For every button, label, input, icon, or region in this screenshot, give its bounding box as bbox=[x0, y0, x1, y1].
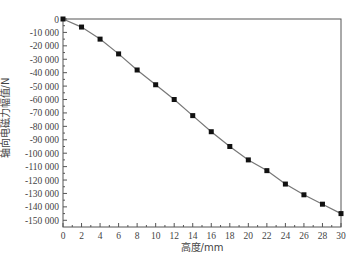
data-point-marker bbox=[209, 129, 214, 134]
x-tick-label: 12 bbox=[169, 231, 179, 241]
y-tick-label: -140 000 bbox=[25, 202, 59, 212]
y-tick-label: -50 000 bbox=[30, 82, 60, 92]
x-axis: 024681012141618202224262830 bbox=[61, 223, 346, 241]
x-tick-label: 10 bbox=[151, 231, 161, 241]
data-point-marker bbox=[135, 67, 140, 72]
data-point-marker bbox=[153, 82, 158, 87]
y-tick-label: -130 000 bbox=[25, 189, 59, 199]
x-tick-label: 16 bbox=[207, 231, 217, 241]
y-tick-label: -120 000 bbox=[25, 176, 59, 186]
line-chart: 0-10 000-20 000-30 000-40 000-50 000-60 … bbox=[0, 0, 352, 266]
x-tick-label: 4 bbox=[98, 231, 103, 241]
series-line bbox=[63, 19, 341, 214]
x-tick-label: 20 bbox=[244, 231, 254, 241]
x-tick-label: 26 bbox=[299, 231, 309, 241]
y-tick-label: -80 000 bbox=[30, 122, 60, 132]
x-tick-label: 2 bbox=[79, 231, 84, 241]
y-tick-label: -110 000 bbox=[25, 162, 59, 172]
y-tick-label: -10 000 bbox=[30, 28, 60, 38]
data-point-marker bbox=[320, 202, 325, 207]
data-point-marker bbox=[190, 113, 195, 118]
y-tick-label: -90 000 bbox=[30, 135, 60, 145]
x-tick-label: 24 bbox=[281, 231, 291, 241]
y-axis-title: 轴向电磁力幅值/N bbox=[0, 78, 11, 159]
y-tick-label: -60 000 bbox=[30, 95, 60, 105]
data-series bbox=[61, 17, 344, 217]
x-tick-label: 30 bbox=[336, 231, 346, 241]
y-tick-label: -20 000 bbox=[30, 41, 60, 51]
data-point-marker bbox=[339, 211, 344, 216]
data-point-marker bbox=[61, 17, 66, 22]
x-tick-label: 14 bbox=[188, 231, 198, 241]
data-point-marker bbox=[79, 25, 84, 30]
data-point-marker bbox=[264, 168, 269, 173]
x-tick-label: 6 bbox=[116, 231, 121, 241]
y-tick-label: -30 000 bbox=[30, 55, 60, 65]
x-tick-label: 18 bbox=[225, 231, 235, 241]
x-tick-label: 22 bbox=[262, 231, 272, 241]
y-tick-label: -100 000 bbox=[25, 149, 59, 159]
y-tick-label: -150 000 bbox=[25, 216, 59, 226]
data-point-marker bbox=[246, 157, 251, 162]
x-tick-label: 28 bbox=[318, 231, 328, 241]
data-point-marker bbox=[283, 182, 288, 187]
data-point-marker bbox=[172, 97, 177, 102]
y-tick-label: 0 bbox=[54, 15, 59, 25]
data-point-marker bbox=[116, 51, 121, 56]
x-tick-label: 8 bbox=[135, 231, 140, 241]
x-axis-title: 高度/mm bbox=[181, 241, 224, 253]
y-axis: 0-10 000-20 000-30 000-40 000-50 000-60 … bbox=[25, 15, 67, 226]
y-tick-label: -70 000 bbox=[30, 108, 60, 118]
y-tick-label: -40 000 bbox=[30, 68, 60, 78]
data-point-marker bbox=[301, 192, 306, 197]
data-point-marker bbox=[98, 37, 103, 42]
x-tick-label: 0 bbox=[61, 231, 66, 241]
data-point-marker bbox=[227, 144, 232, 149]
